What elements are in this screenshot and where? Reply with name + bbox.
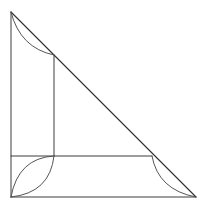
geometry-figure: Right triangle with inscribed rectangle … xyxy=(0,0,203,210)
